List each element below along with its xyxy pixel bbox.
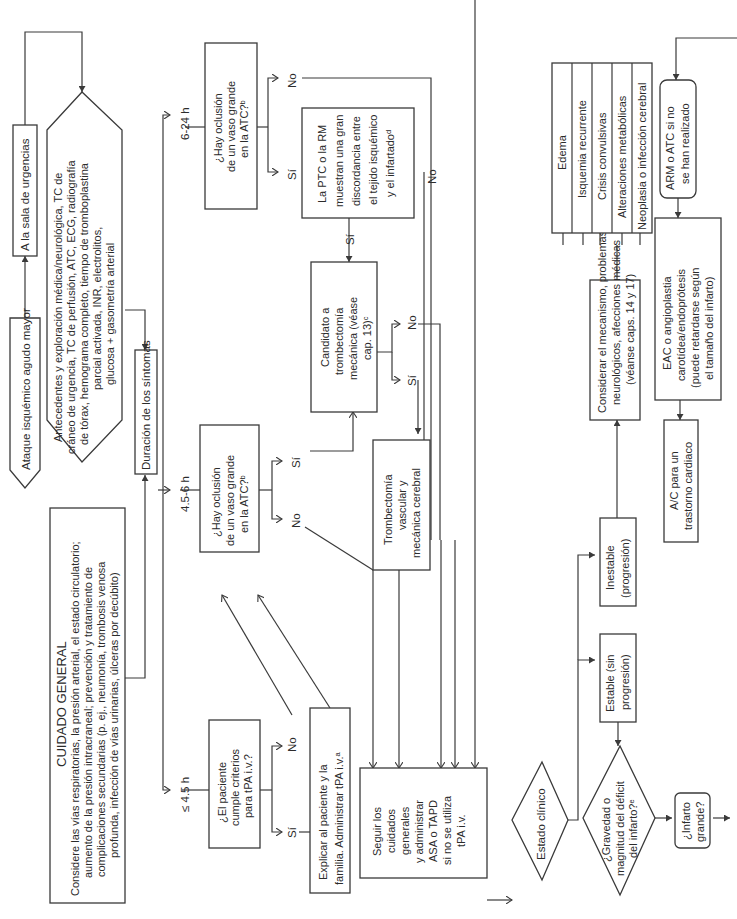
node-text: ARM o ATC si no — [664, 106, 676, 190]
node-text: ¿Gravedad o — [600, 798, 612, 862]
mid-yes-label: Sí — [290, 456, 302, 468]
node-text: parcial activada, INR, electrolitos, — [91, 227, 103, 390]
node-text: La PTC o la RM — [316, 125, 328, 203]
node-text: el tamaño del infarto) — [703, 277, 715, 380]
late-no-label: No — [286, 73, 298, 88]
node-mra-cta: ARM o ATC si no se han realizado — [660, 80, 696, 198]
node-text: mecánica (véase — [347, 297, 359, 380]
node-administer-tpa: Explicar al paciente y la familia. Admin… — [310, 708, 350, 893]
node-text: glucosa + gasometría arterial — [104, 243, 116, 385]
node-symptom-duration: Duración de los síntomas — [135, 340, 157, 474]
node-text: tPA i.v. — [455, 814, 467, 847]
node-unstable: Inestable (progresión) — [600, 518, 636, 606]
node-text: en la ATC?ᵇ — [238, 475, 250, 533]
node-text: magnitud del déficit — [614, 781, 626, 876]
node-thrombectomy: Trombectomía vascular y mecánica cerebra… — [373, 440, 430, 570]
mid-no-label: No — [290, 513, 302, 528]
node-text: complicaciones secundarias (p. ej., neum… — [95, 561, 107, 877]
candidate-yes-label: Sí — [406, 374, 418, 386]
node-text: de un vaso grande — [224, 455, 236, 546]
node-stable: Estable (sin progresión) — [600, 634, 636, 722]
tpa-yes-label: Sí — [286, 826, 298, 838]
node-text: ¿Hay oclusión — [210, 467, 222, 537]
node-thrombectomy-candidate: Candidato a trombectomía mecánica (véase… — [311, 262, 377, 412]
node-text: Inestable — [604, 545, 616, 590]
node-consider-mechanism: Considerar el mecanismo, problemas neuro… — [590, 230, 640, 420]
node-clinical-state: Estado clínico — [512, 762, 568, 880]
node-text: Explicar al paciente y la — [317, 764, 329, 880]
node-text: del infarto?ᵉ — [627, 799, 639, 858]
complication-recurrent-ischemia: Isquemia recurrente — [576, 100, 588, 198]
node-lvo-question-late: ¿Hay oclusión de un vaso grande en la AT… — [205, 43, 257, 209]
node-text: (véanse caps. 14 y 17) — [624, 274, 636, 385]
node-text: aumento de la presión intracraneal; prev… — [82, 567, 94, 878]
node-text: trombectomía — [333, 307, 345, 375]
node-perfusion-mismatch: La PTC o la RM muestran una gran discord… — [302, 108, 414, 218]
node-text: y administrar — [413, 800, 425, 863]
node-text: cráneo de urgencia, TC de perfusión, ATC… — [65, 159, 77, 454]
node-initial-workup: Antecedentes y exploración médica/neurol… — [47, 92, 122, 462]
node-text: (progresión) — [619, 539, 631, 598]
start-label: Ataque isquémico agudo mayor — [20, 308, 32, 470]
node-text: ¿Hay oclusión — [212, 93, 224, 163]
complication-neoplasia-infection: Neoplasia o infección cerebral — [636, 83, 648, 230]
node-text: Estable (sin — [604, 655, 616, 712]
complication-seizures: Crisis convulsivas — [596, 112, 608, 200]
node-complications-list: Edema Isquemia recurrente Crisis convuls… — [552, 63, 652, 233]
node-text: en la ATC?ᵇ — [238, 100, 250, 158]
node-text: muestran una gran — [333, 115, 345, 207]
node-text: se han realizado — [679, 103, 691, 184]
node-text: Trombectomía — [382, 474, 394, 545]
node-text: mecánica cerebral — [410, 468, 422, 558]
node-text: Considere las vías respiratorias, la pre… — [69, 541, 81, 896]
node-text: el tejido isquémico — [367, 115, 379, 206]
node-text: trastorno cardiaco — [682, 442, 694, 530]
node-text: discordancia entre — [350, 116, 362, 206]
late-yes-label: Sí — [286, 168, 298, 180]
node-text: EAC o angioplastia — [661, 276, 673, 370]
node-start: Ataque isquémico agudo mayor — [10, 308, 40, 488]
node-text: de un vaso grande — [225, 81, 237, 172]
node-text: cap. 13)ᶜ — [361, 316, 373, 360]
node-text: Candidato a — [319, 307, 331, 367]
node-text: grande? — [694, 802, 706, 842]
node-anticoagulation: A/C para un trastorno cardiaco — [664, 420, 698, 542]
node-text: Estado clínico — [535, 788, 547, 860]
node-severity: ¿Gravedad o magnitud del déficit del inf… — [583, 746, 655, 895]
node-text: si no se utiliza — [441, 795, 453, 865]
complication-edema: Edema — [556, 134, 568, 170]
node-emergency-room: A la sala de urgencias — [13, 125, 37, 256]
node-text: vascular y — [396, 480, 408, 530]
node-text: Seguir los — [371, 807, 383, 856]
node-text: ¿Infarto — [680, 802, 692, 840]
node-text: profunda, infección de vías urinarias, ú… — [108, 572, 120, 858]
complication-metabolic: Alteraciones metabólicas — [616, 95, 628, 218]
node-text: Considerar el mecanismo, problemas — [596, 230, 608, 413]
candidate-no-label: No — [406, 315, 418, 330]
node-text: Antecedentes y exploración médica/neurol… — [52, 173, 64, 442]
node-text: generales — [399, 806, 411, 855]
node-text: para tPA i.v.? — [242, 754, 254, 818]
mismatch-yes-label: Sí — [344, 233, 356, 245]
node-text: carotídea/endoprótesis — [675, 269, 687, 381]
node-text: (puede retardarse según — [689, 268, 701, 388]
er-label: A la sala de urgencias — [19, 138, 31, 251]
node-general-care: CUIDADO GENERAL Considere las vías respi… — [50, 508, 125, 903]
node-text: ASA o TAPD — [427, 800, 439, 862]
tpa-no-label: No — [286, 737, 298, 752]
node-text: de tórax, hemograma completo, tiempo de … — [78, 162, 90, 445]
node-text: Duración de los síntomas — [140, 340, 152, 470]
node-text: cuidados — [385, 808, 397, 853]
node-text: progresión) — [619, 654, 631, 710]
node-tpa-criteria: ¿El paciente cumple criterios para tPA i… — [209, 720, 260, 848]
mismatch-no-label: No — [426, 169, 438, 184]
branch-6-24h: 6-24 h — [179, 107, 191, 140]
node-lvo-question-mid: ¿Hay oclusión de un vaso grande en la AT… — [200, 425, 259, 552]
branch-le-4-5h: ≤ 4.5 h — [179, 777, 191, 812]
node-endarterectomy: EAC o angioplastia carotídea/endoprótesi… — [655, 218, 721, 400]
node-text: ¿El paciente — [216, 762, 228, 823]
node-text: neurológicos, afecciones médicas — [610, 239, 622, 405]
stroke-management-flowchart: Ataque isquémico agudo mayor A la sala d… — [0, 0, 737, 919]
node-follow-care: Seguir los cuidados generales y administ… — [360, 768, 487, 878]
node-text: A/C para un — [668, 451, 680, 510]
